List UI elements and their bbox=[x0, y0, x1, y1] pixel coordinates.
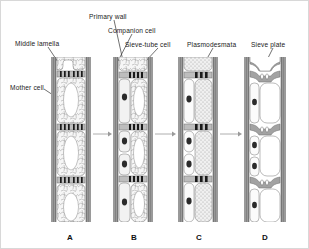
cross-wall-2 bbox=[57, 124, 85, 130]
arrow-b-c bbox=[155, 132, 176, 137]
sieve-tube-cell-top bbox=[119, 57, 147, 71]
panel-letter-d: D bbox=[262, 233, 268, 242]
companion-cell-nucleus bbox=[122, 199, 127, 206]
sieve-tube-element-top bbox=[250, 57, 280, 71]
companion-cell-nucleus bbox=[186, 138, 191, 145]
cell-pair-2 bbox=[184, 131, 212, 175]
mother-cell-2 bbox=[57, 78, 85, 123]
cross-wall-2 bbox=[184, 124, 212, 130]
plasmodesmata-group-2 bbox=[195, 124, 208, 130]
sieve-tube-development-figure: Middle lamella Mother cell Primary wall … bbox=[0, 0, 309, 249]
companion-cell bbox=[119, 79, 130, 123]
middle-lamella-line bbox=[53, 57, 54, 222]
panel-b bbox=[113, 57, 153, 222]
sieve-plate-2 bbox=[250, 124, 280, 135]
mother-cell-4 bbox=[57, 184, 85, 222]
plasmodesmata-group-1 bbox=[195, 72, 208, 78]
companion-cell-nucleus bbox=[252, 142, 257, 148]
middle-lamella-line bbox=[246, 57, 247, 222]
panel-a bbox=[51, 57, 91, 222]
mother-cell-1 bbox=[57, 57, 85, 70]
panel-letter-a: A bbox=[67, 233, 73, 242]
companion-cell-nucleus bbox=[122, 94, 127, 101]
sieve-tube-lumen bbox=[260, 83, 280, 123]
middle-lamella-line bbox=[115, 57, 116, 222]
cross-wall-3 bbox=[184, 176, 212, 182]
cell-pair-1 bbox=[184, 79, 212, 123]
mature-sieve-tube-3 bbox=[250, 189, 280, 222]
cross-wall-1 bbox=[119, 72, 147, 78]
companion-cell-nucleus bbox=[186, 96, 191, 103]
companion-cell-nucleus bbox=[252, 163, 257, 169]
sieve-tube-cell bbox=[195, 131, 212, 175]
panel-c bbox=[178, 57, 218, 222]
panel-d bbox=[244, 57, 286, 222]
cross-wall-1 bbox=[184, 72, 212, 78]
cross-wall-3 bbox=[119, 176, 147, 182]
sieve-tube-lumen bbox=[260, 189, 280, 222]
companion-cell-nucleus bbox=[122, 161, 127, 168]
vacuole bbox=[64, 83, 79, 117]
companion-cell-nucleus bbox=[252, 99, 257, 105]
sieve-plate-3 bbox=[250, 177, 280, 188]
panel-letter-b: B bbox=[131, 233, 137, 242]
companion-cell-nucleus bbox=[186, 161, 191, 168]
mature-sieve-tube-1 bbox=[250, 83, 280, 123]
companion-cell-nucleus bbox=[122, 138, 127, 145]
cell-pair-3 bbox=[184, 183, 212, 222]
companion-cell-nucleus bbox=[186, 198, 191, 205]
cell-pair-2 bbox=[119, 131, 147, 175]
sieve-tube-cell bbox=[195, 79, 212, 123]
arrow-c-d bbox=[220, 132, 242, 137]
cell-pair-3 bbox=[119, 183, 147, 222]
sieve-tube-cell-top bbox=[184, 57, 212, 71]
mother-cell-3 bbox=[57, 131, 85, 176]
vacuole bbox=[64, 136, 79, 170]
sieve-tube-cell bbox=[195, 183, 212, 222]
cell-pair-1 bbox=[119, 79, 147, 123]
sieve-tube-lumen bbox=[260, 136, 280, 176]
companion-cell-nucleus bbox=[252, 202, 257, 208]
vacuole bbox=[64, 193, 79, 221]
sieve-plate-1 bbox=[250, 71, 280, 82]
cross-wall-1 bbox=[57, 71, 85, 77]
panel-letter-c: C bbox=[196, 233, 202, 242]
arrow-a-b bbox=[93, 132, 112, 137]
middle-lamella-line bbox=[180, 57, 181, 222]
mature-sieve-tube-2 bbox=[250, 136, 280, 176]
cross-wall-3 bbox=[57, 177, 85, 183]
cross-wall-2 bbox=[119, 124, 147, 130]
plasmodesmata-group-3 bbox=[195, 176, 208, 182]
